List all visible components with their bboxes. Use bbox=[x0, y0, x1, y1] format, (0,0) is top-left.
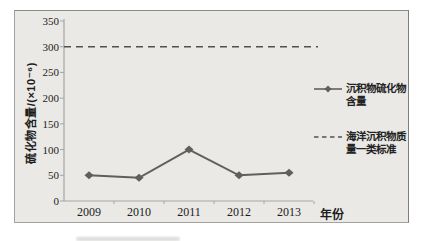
x-axis-title: 年份 bbox=[320, 205, 344, 222]
legend-diamond-marker bbox=[325, 86, 332, 93]
chart-figure: 050100150200250300350 200920102011201220… bbox=[14, 10, 409, 223]
y-tick-label: 300 bbox=[15, 40, 59, 54]
legend-label-line: 量一类标准 bbox=[346, 143, 406, 156]
x-tick-label: 2011 bbox=[167, 205, 211, 219]
legend-label-line: 沉积物硫化物 bbox=[346, 82, 406, 95]
cut-off-caption-artifact bbox=[76, 237, 180, 241]
y-tick-label: 50 bbox=[15, 168, 59, 182]
y-tick-label: 0 bbox=[15, 194, 59, 208]
x-tick-label: 2013 bbox=[267, 205, 311, 219]
sediment-sulfide-line bbox=[89, 150, 289, 178]
legend-item-sediment-sulfide: 沉积物硫化物 含量 bbox=[314, 82, 408, 108]
data-point-diamond-marker bbox=[85, 171, 94, 179]
data-point-diamond-marker bbox=[235, 171, 244, 179]
data-point-diamond-marker bbox=[285, 169, 294, 177]
y-tick-label: 350 bbox=[15, 14, 59, 28]
legend-label-line: 海洋沉积物质 bbox=[346, 130, 406, 143]
legend-label-quality-standard: 海洋沉积物质 量一类标准 bbox=[346, 130, 406, 156]
chart-legend: 沉积物硫化物 含量 海洋沉积物质 量一类标准 bbox=[314, 82, 408, 156]
dashed-line-icon bbox=[314, 132, 342, 142]
legend-item-quality-standard: 海洋沉积物质 量一类标准 bbox=[314, 130, 408, 156]
y-axis-title: 硫化物含量/(×10⁻⁶) bbox=[22, 62, 38, 164]
page: { "chart_data": { "type": "line", "title… bbox=[0, 0, 421, 241]
x-tick-label: 2010 bbox=[117, 205, 161, 219]
legend-label-line: 含量 bbox=[346, 95, 406, 108]
x-tick-label: 2009 bbox=[67, 205, 111, 219]
x-tick-label: 2012 bbox=[217, 205, 261, 219]
solid-line-diamond-marker-icon bbox=[314, 84, 342, 94]
legend-label-sediment-sulfide: 沉积物硫化物 含量 bbox=[346, 82, 406, 108]
